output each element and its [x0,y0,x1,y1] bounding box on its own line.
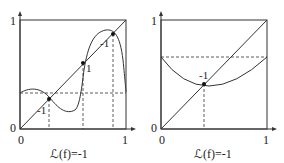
left-curve [20,30,126,112]
left-plot [18,11,136,131]
left-fixed-point-1 [47,97,51,101]
left-dashed-lines [20,34,126,129]
left-x-tick-zero: 0 [18,134,24,146]
left-caption: ℒ(f)=-1 [50,148,88,160]
left-x-arrow-icon [131,127,136,131]
right-x-tick-zero: 0 [159,134,165,146]
left-diagonal [20,20,126,129]
right-dashed-lines [161,57,267,129]
figure [0,0,284,163]
left-fixed-point-1-label: -1 [37,105,46,116]
right-plot [159,11,277,131]
right-y-arrow-icon [159,11,163,16]
right-caption: ℒ(f)=-1 [194,148,232,160]
left-y-arrow-icon [18,11,22,16]
left-fixed-point-3-label: -1 [100,38,109,49]
right-fixed-point-1 [202,82,206,86]
right-x-arrow-icon [272,127,277,131]
right-y-tick-zero: 0 [151,122,157,134]
left-x-tick-one: 1 [122,134,128,146]
right-x-tick-one: 1 [263,134,269,146]
left-fixed-point-2-label: 1 [86,63,92,74]
left-fixed-point-3 [111,32,115,36]
left-fixed-point-2 [81,61,85,65]
right-y-tick-one: 1 [151,15,157,27]
left-y-tick-one: 1 [10,15,16,27]
right-curve [161,57,267,86]
left-y-tick-zero: 0 [10,122,16,134]
right-fixed-point-1-label: -1 [199,70,208,81]
